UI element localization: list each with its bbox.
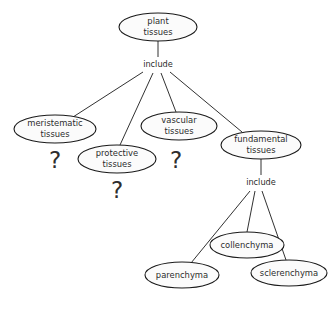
node-label-meristematic-tissues-line1: meristematic [27, 118, 83, 128]
node-label-parenchyma: parenchyma [156, 270, 208, 280]
node-protective-tissues[interactable]: protective tissues [78, 145, 156, 173]
link-label-include-bottom: include [246, 177, 276, 187]
node-sclerenchyma[interactable]: sclerenchyma [251, 260, 327, 286]
node-fundamental-tissues[interactable]: fundamental tissues [221, 131, 301, 159]
question-mark-center: ? [111, 177, 123, 203]
node-label-plant-tissues-line1: plant [147, 16, 169, 26]
node-label-collenchyma: collenchyma [220, 240, 273, 250]
question-mark-left: ? [49, 147, 61, 173]
edge-include-to-meristematic [73, 72, 143, 117]
node-meristematic-tissues[interactable]: meristematic tissues [14, 115, 96, 143]
node-collenchyma[interactable]: collenchyma [210, 232, 284, 258]
edge-include-to-vascular [161, 73, 176, 112]
edge-include-to-collenchyma [247, 191, 255, 232]
node-label-vascular-tissues-line1: vascular [161, 115, 197, 125]
question-mark-right: ? [170, 147, 182, 173]
node-label-protective-tissues-line2: tissues [102, 159, 131, 169]
node-label-fundamental-tissues-line1: fundamental [234, 134, 287, 144]
diagram-canvas: include include plant tissues meristemat… [0, 0, 330, 309]
node-label-fundamental-tissues-line2: tissues [246, 145, 275, 155]
node-label-plant-tissues-line2: tissues [143, 27, 172, 37]
concept-map-diagram: include include plant tissues meristemat… [0, 0, 330, 309]
node-label-protective-tissues-line1: protective [96, 148, 138, 158]
node-plant-tissues[interactable]: plant tissues [119, 13, 197, 41]
node-label-vascular-tissues-line2: tissues [164, 126, 193, 136]
node-label-sclerenchyma: sclerenchyma [260, 268, 318, 278]
node-parenchyma[interactable]: parenchyma [145, 262, 219, 288]
node-vascular-tissues[interactable]: vascular tissues [141, 112, 217, 140]
link-label-include-top: include [143, 59, 173, 69]
node-label-meristematic-tissues-line2: tissues [40, 129, 69, 139]
